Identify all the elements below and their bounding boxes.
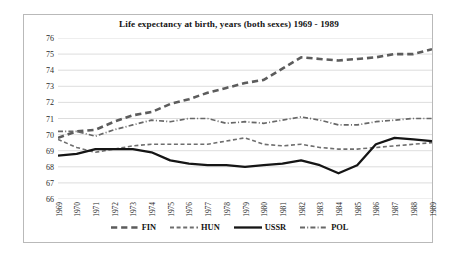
x-axis-tick-label: 1977 [204,202,213,217]
legend-swatch-ussr-icon [233,223,263,232]
y-axis-tick-label: 68 [46,162,54,171]
legend-swatch-hun-icon [169,223,199,232]
x-axis-tick-label: 1986 [372,202,381,217]
x-axis-tick-label: 1985 [354,202,363,217]
legend-swatch-fin-icon [110,223,140,232]
legend-swatch-pol-icon [299,223,329,232]
x-axis-tick-label: 1982 [298,202,307,217]
x-axis-tick-label: 1970 [73,202,82,217]
y-axis-tick-label: 73 [46,82,54,91]
legend-entry-pol[interactable]: POL [299,223,348,232]
x-axis-tick-label: 1979 [242,202,251,217]
x-axis-tick-label: 1984 [335,202,344,217]
plot-area: 7675747372717069686766196919701971197219… [58,38,432,199]
x-axis-tick-label: 1981 [279,202,288,217]
y-axis-tick-label: 69 [46,146,54,155]
y-axis-tick-label: 70 [46,130,54,139]
x-axis-tick-label: 1969 [55,202,64,217]
x-axis-tick-label: 1973 [129,202,138,217]
y-axis-tick-label: 71 [46,114,54,123]
series-line-pol [58,117,432,136]
x-axis-tick-label: 1988 [410,202,419,217]
chart-container: Life expectancy at birth, years (both se… [23,14,433,243]
y-axis-tick-label: 75 [46,50,54,59]
y-axis-tick-label: 74 [46,66,54,75]
series-line-fin [58,49,432,138]
x-axis-tick-label: 1976 [185,202,194,217]
x-axis-tick-label: 1972 [111,202,120,217]
legend-entry-ussr[interactable]: USSR [233,223,286,232]
x-axis-tick-label: 1987 [391,202,400,217]
legend-label: FIN [142,223,156,232]
x-axis-tick-label: 1975 [167,202,176,217]
x-axis-tick-label: 1980 [260,202,269,217]
x-axis-tick-label: 1978 [223,202,232,217]
series-line-ussr [58,138,432,173]
legend-entry-fin[interactable]: FIN [110,223,156,232]
plot-svg [58,38,432,199]
legend-entry-hun[interactable]: HUN [169,223,220,232]
legend-label: HUN [201,223,220,232]
x-axis-tick-label: 1971 [92,202,101,217]
x-axis-tick-label: 1974 [148,202,157,217]
legend-label: USSR [265,223,286,232]
x-axis-tick-label: 1989 [429,202,438,217]
y-axis-tick-label: 76 [46,34,54,43]
y-axis-tick-label: 67 [46,178,54,187]
legend-label: POL [331,223,348,232]
y-axis-tick-label: 72 [46,98,54,107]
x-axis-tick-label: 1983 [316,202,325,217]
chart-title: Life expectancy at birth, years (both se… [24,19,434,29]
y-axis-tick-label: 66 [46,195,54,204]
chart-legend: FINHUNUSSRPOL [24,223,434,232]
